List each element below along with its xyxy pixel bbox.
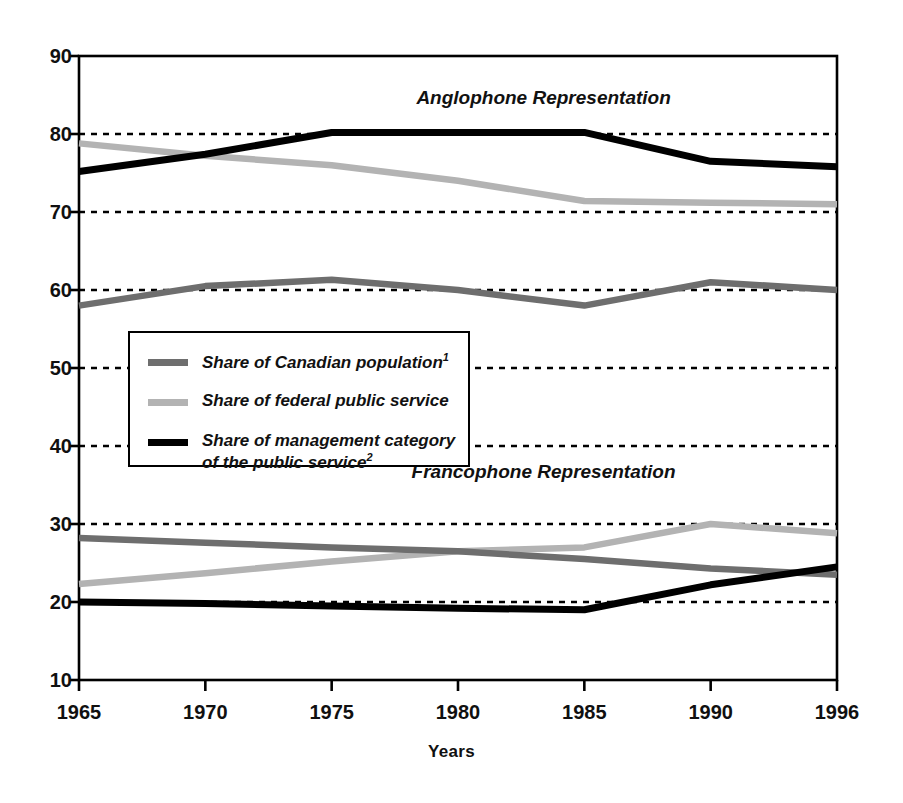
legend-swatch-public-service bbox=[148, 399, 188, 406]
x-axis-tick-label: 1990 bbox=[688, 702, 733, 722]
anglophone-region-label: Anglophone Representation bbox=[416, 87, 670, 109]
legend-swatch-management bbox=[148, 439, 188, 446]
chart-legend: Share of Canadian population1Share of fe… bbox=[128, 331, 470, 467]
x-axis-tick-label: 1980 bbox=[436, 702, 481, 722]
x-axis-tick-label: 1996 bbox=[815, 702, 860, 722]
legend-item: Share of federal public service bbox=[148, 391, 449, 411]
x-axis-tick-label: 1970 bbox=[183, 702, 228, 722]
x-axis-tick-label: 1985 bbox=[562, 702, 607, 722]
legend-item-label: Share of federal public service bbox=[202, 391, 449, 411]
x-axis-tick-label: 1975 bbox=[309, 702, 354, 722]
legend-item: Share of management category of the publ… bbox=[148, 431, 455, 473]
legend-item-label: Share of management category of the publ… bbox=[202, 431, 455, 473]
x-axis-tick-label: 1965 bbox=[57, 702, 102, 722]
legend-item: Share of Canadian population1 bbox=[148, 351, 449, 373]
legend-footnote-marker: 1 bbox=[443, 351, 449, 363]
x-axis-title: Years bbox=[0, 742, 903, 762]
chart-container: 102030405060708090 196519701975198019851… bbox=[0, 0, 903, 803]
legend-item-label: Share of Canadian population1 bbox=[202, 351, 449, 373]
legend-swatch-population bbox=[148, 359, 188, 366]
legend-footnote-marker: 2 bbox=[366, 451, 372, 463]
